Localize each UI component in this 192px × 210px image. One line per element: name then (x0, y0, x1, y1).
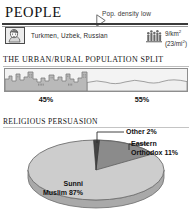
density-note: Pop. density low (102, 10, 151, 17)
religion-title: RELIGIOUS PERSUASION (3, 117, 98, 126)
density-metric: 9/km (165, 30, 179, 37)
triangle-right-icon (88, 8, 96, 20)
urban-rural-title: THE URBAN/RURAL POPULATION SPLIT (3, 55, 163, 64)
pie-label-other: Other 2% (126, 128, 157, 137)
urban-rural-graphic (4, 68, 188, 92)
urban-percent-label: 45% (0, 95, 92, 104)
rural-percent-label: 55% (92, 95, 192, 104)
urban-rural-labels: 45% 55% (0, 95, 192, 105)
pie-label-sunni-muslim-line2: Muslim 87% (43, 189, 83, 196)
density-value: 9/km2 (23/mi2) (165, 28, 187, 49)
density-metric-exponent: 2 (179, 29, 181, 34)
density-imperial-close: ) (185, 40, 187, 47)
pie-label-sunni-muslim: Sunni Muslim 87% (17, 180, 83, 197)
people-infographic-panel: PEOPLE Pop. density low Turkmen, Uzbek, … (0, 0, 192, 210)
panel-header: PEOPLE Pop. density low (0, 4, 192, 26)
rolling-hills-icon (87, 80, 187, 91)
page-title: PEOPLE (5, 4, 62, 21)
density-imperial: (23/mi (165, 40, 183, 47)
pie-label-eastern-orthodox-line1: Eastern (131, 140, 157, 147)
pie-label-eastern-orthodox: Eastern Orthodox 11% (131, 140, 178, 157)
face-portrait-icon (5, 27, 25, 44)
info-row: Turkmen, Uzbek, Russian 9/km2 (23/mi2) (0, 27, 192, 49)
pie-label-sunni-muslim-line1: Sunni (64, 180, 83, 187)
urban-rural-rule (3, 66, 189, 67)
religion-pie-chart (0, 126, 192, 210)
people-group-icon (146, 27, 162, 43)
pie-label-eastern-orthodox-line2: Orthodox 11% (131, 149, 178, 156)
languages-value: Turkmen, Uzbek, Russian (31, 32, 108, 39)
